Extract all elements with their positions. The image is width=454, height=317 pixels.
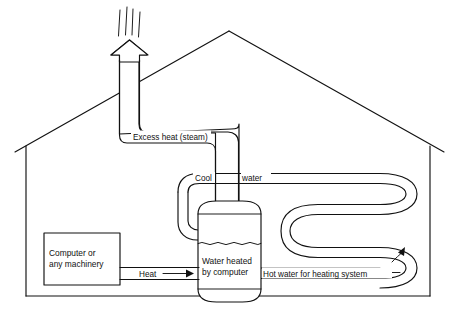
steam-wisp-2 (126, 7, 128, 35)
steam-wisps (119, 7, 141, 37)
steam-duct (111, 40, 239, 207)
tank-body (198, 201, 261, 302)
diagram-canvas: Excess heat (steam) Cool water (0, 0, 454, 317)
steam-wisp-3 (132, 9, 133, 35)
cool-water-label-left: Cool (195, 174, 212, 183)
steam-duct-lower-wall (120, 135, 216, 207)
computer-label-line-1: Computer or (49, 248, 96, 258)
steam-wisp-1 (119, 10, 121, 36)
steam-arrow-head (111, 40, 148, 62)
serpentine-inner-wall (281, 184, 406, 279)
label-hot-water: Hot water for heating system (262, 268, 392, 279)
tank-label-line-2: by computer (202, 267, 248, 277)
excess-heat-label: Excess heat (steam) (133, 133, 208, 142)
roof-right-slope (229, 31, 444, 152)
water-tank: Water heated by computer (198, 201, 261, 302)
computer-box: Computer or any machinery (44, 233, 120, 285)
waste-heat-recovery-diagram: Excess heat (steam) Cool water (0, 0, 454, 317)
heat-duct: Heat (120, 268, 199, 280)
label-excess-heat: Excess heat (steam) (131, 131, 211, 142)
cool-water-label-right: water (241, 174, 262, 183)
heat-arrow-head (186, 270, 194, 278)
tank-label-line-1: Water heated (202, 256, 252, 266)
steam-wisp-4 (139, 12, 141, 37)
computer-label-line-2: any machinery (49, 259, 104, 269)
flow-arrow-tail (392, 252, 403, 262)
steam-duct-outline (111, 40, 239, 207)
heat-label: Heat (139, 270, 157, 279)
hot-water-label: Hot water for heating system (263, 270, 367, 279)
